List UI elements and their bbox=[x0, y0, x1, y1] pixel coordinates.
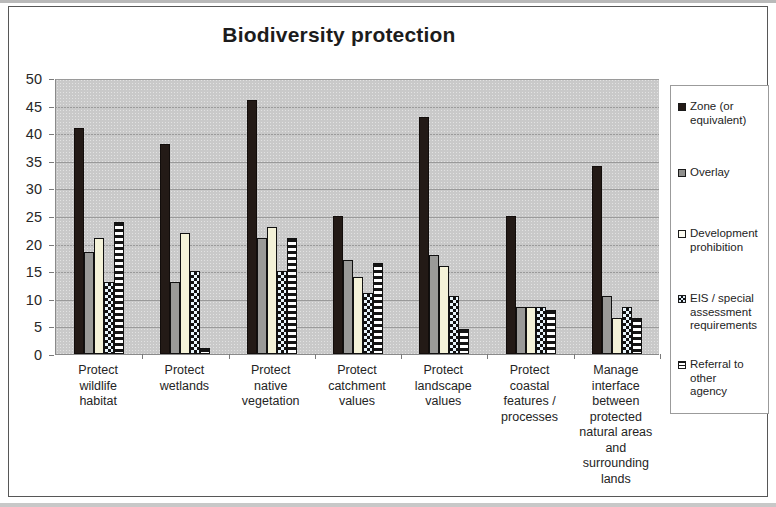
x-axis-category-line: protected bbox=[573, 410, 659, 426]
x-axis-category-line: natural areas bbox=[573, 425, 659, 441]
bar bbox=[200, 348, 210, 354]
chart-frame: Biodiversity protection 5045403530252015… bbox=[8, 6, 768, 497]
bar-group bbox=[592, 79, 642, 354]
x-axis-category-label: Protectwetlands bbox=[141, 363, 227, 394]
bar bbox=[180, 233, 190, 354]
bar bbox=[247, 100, 257, 354]
bar bbox=[612, 318, 622, 354]
y-tick-label: 45 bbox=[26, 99, 42, 115]
y-tick-label: 15 bbox=[26, 264, 42, 280]
x-tick-mark bbox=[401, 354, 402, 359]
y-tick-label: 35 bbox=[26, 154, 42, 170]
x-tick-mark bbox=[660, 354, 661, 359]
y-tick-label: 5 bbox=[34, 319, 42, 335]
y-tick-mark bbox=[49, 327, 54, 328]
x-axis-category-line: features / bbox=[486, 394, 572, 410]
bar bbox=[363, 293, 373, 354]
y-tick-mark bbox=[49, 134, 54, 135]
x-axis-category-line: Protect bbox=[141, 363, 227, 379]
bar bbox=[170, 282, 180, 354]
bar bbox=[267, 227, 277, 354]
y-tick-label: 0 bbox=[34, 347, 42, 363]
plot-area bbox=[55, 79, 659, 355]
x-axis-category-line: lands bbox=[573, 472, 659, 488]
x-axis-category-label: Protectcatchmentvalues bbox=[314, 363, 400, 410]
legend-item-label: Referral to otheragency bbox=[690, 358, 768, 399]
x-axis-category-label: Manageinterfacebetweenprotectednatural a… bbox=[573, 363, 659, 487]
x-tick-mark bbox=[229, 354, 230, 359]
bar bbox=[546, 310, 556, 354]
x-axis-category-line: and bbox=[573, 441, 659, 457]
legend-item-label: Developmentprohibition bbox=[690, 227, 758, 254]
bars-layer bbox=[56, 79, 659, 354]
bar-group bbox=[333, 79, 383, 354]
x-axis-category-line: wetlands bbox=[141, 379, 227, 395]
legend: Zone (orequivalent)OverlayDevelopmentpro… bbox=[670, 85, 769, 414]
legend-item[interactable]: EIS / specialassessmentrequirements bbox=[678, 292, 768, 333]
x-axis-category-line: Protect bbox=[400, 363, 486, 379]
x-axis-category-line: vegetation bbox=[228, 394, 314, 410]
x-axis-category-line: landscape bbox=[400, 379, 486, 395]
x-axis-category-line: native bbox=[228, 379, 314, 395]
legend-item[interactable]: Overlay bbox=[678, 166, 768, 180]
bar bbox=[459, 329, 469, 354]
x-axis-category-line: surrounding bbox=[573, 456, 659, 472]
bar bbox=[160, 144, 170, 354]
x-axis-category-line: habitat bbox=[55, 394, 141, 410]
x-axis-category-line: Protect bbox=[314, 363, 400, 379]
bar bbox=[257, 238, 267, 354]
x-axis-category-label: Protectnativevegetation bbox=[228, 363, 314, 410]
y-tick-mark bbox=[49, 245, 54, 246]
bar bbox=[592, 166, 602, 354]
bar bbox=[526, 307, 536, 354]
bar bbox=[516, 307, 526, 354]
bar bbox=[277, 271, 287, 354]
x-axis-category-line: coastal bbox=[486, 379, 572, 395]
bar bbox=[74, 128, 84, 354]
legend-swatch-icon bbox=[678, 295, 686, 303]
x-axis-category-label: Protectwildlifehabitat bbox=[55, 363, 141, 410]
y-tick-label: 30 bbox=[26, 181, 42, 197]
x-axis-category-line: wildlife bbox=[55, 379, 141, 395]
x-axis-category-line: Protect bbox=[228, 363, 314, 379]
legend-swatch-icon bbox=[678, 169, 686, 177]
bar bbox=[333, 216, 343, 354]
legend-item[interactable]: Developmentprohibition bbox=[678, 227, 768, 254]
x-axis-category-line: catchment bbox=[314, 379, 400, 395]
bar bbox=[429, 255, 439, 354]
bar bbox=[536, 307, 546, 354]
x-axis-category-line: interface bbox=[573, 379, 659, 395]
scan-edge-bottom bbox=[0, 503, 776, 507]
x-axis-category-line: Protect bbox=[486, 363, 572, 379]
bar bbox=[506, 216, 516, 354]
legend-swatch-icon bbox=[678, 361, 686, 369]
x-tick-mark bbox=[315, 354, 316, 359]
y-tick-mark bbox=[49, 79, 54, 80]
x-tick-mark bbox=[487, 354, 488, 359]
y-tick-mark bbox=[49, 355, 54, 356]
chart-title: Biodiversity protection bbox=[9, 23, 669, 47]
legend-item-label: Zone (orequivalent) bbox=[690, 100, 746, 127]
bar bbox=[602, 296, 612, 354]
legend-swatch-icon bbox=[678, 230, 686, 238]
y-tick-mark bbox=[49, 272, 54, 273]
y-tick-label: 40 bbox=[26, 126, 42, 142]
y-tick-mark bbox=[49, 162, 54, 163]
bar bbox=[419, 117, 429, 354]
bar bbox=[632, 318, 642, 354]
x-axis-category-line: between bbox=[573, 394, 659, 410]
scan-edge-top bbox=[0, 0, 776, 3]
y-tick-label: 25 bbox=[26, 209, 42, 225]
legend-item[interactable]: Zone (orequivalent) bbox=[678, 100, 768, 127]
legend-item[interactable]: Referral to otheragency bbox=[678, 358, 768, 399]
bar bbox=[343, 260, 353, 354]
x-axis-category-line: processes bbox=[486, 410, 572, 426]
x-tick-mark bbox=[142, 354, 143, 359]
bar bbox=[94, 238, 104, 354]
legend-item-label: EIS / specialassessmentrequirements bbox=[690, 292, 757, 333]
bar bbox=[84, 252, 94, 354]
bar bbox=[439, 266, 449, 354]
x-axis-labels: ProtectwildlifehabitatProtectwetlandsPro… bbox=[55, 363, 659, 498]
y-tick-mark bbox=[49, 107, 54, 108]
x-axis-category-label: Protectcoastalfeatures /processes bbox=[486, 363, 572, 425]
